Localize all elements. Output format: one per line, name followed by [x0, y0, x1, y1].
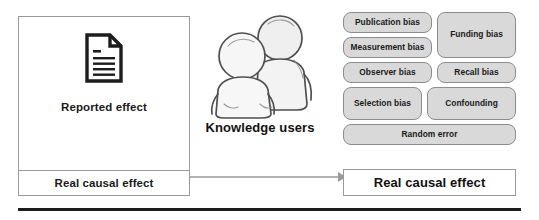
knowledge-users-label: Knowledge users — [190, 120, 330, 135]
reported-effect-label: Reported effect — [19, 101, 189, 113]
bias-pill-measurement-bias[interactable]: Measurement bias — [343, 37, 432, 58]
two-people-icon — [198, 8, 322, 120]
bias-pill-random-error[interactable]: Random error — [343, 124, 516, 145]
right-real-causal-effect-label: Real causal effect — [374, 175, 486, 190]
bias-pill-confounding[interactable]: Confounding — [427, 87, 516, 120]
document-icon-container — [19, 33, 189, 83]
bias-pill-recall-bias[interactable]: Recall bias — [437, 62, 516, 83]
diagram-canvas: Reported effect Real causal effect — [0, 0, 539, 220]
bias-pill-observer-bias[interactable]: Observer bias — [343, 62, 432, 83]
document-icon — [84, 33, 124, 83]
bias-pill-selection-bias[interactable]: Selection bias — [343, 87, 422, 120]
left-real-causal-effect-label: Real causal effect — [55, 177, 154, 189]
left-real-causal-effect-section: Real causal effect — [19, 171, 189, 195]
bias-pill-funding-bias[interactable]: Funding bias — [437, 12, 516, 58]
knowledge-users-illustration — [198, 8, 322, 120]
bottom-divider-rule — [18, 208, 521, 211]
arrow-right-icon — [188, 168, 348, 186]
right-real-causal-effect-panel: Real causal effect — [343, 169, 516, 196]
reported-effect-panel: Reported effect Real causal effect — [18, 16, 190, 196]
reported-effect-upper-section: Reported effect — [19, 17, 189, 170]
bias-pill-publication-bias[interactable]: Publication bias — [343, 12, 432, 33]
